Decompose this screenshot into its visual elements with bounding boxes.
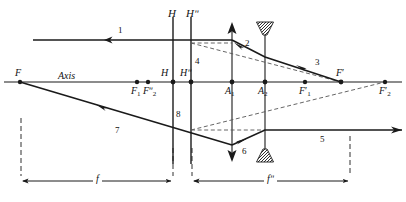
dimension-label-f2: fʺ	[264, 174, 277, 184]
point-label-F1prime: F′1	[299, 86, 311, 98]
point-label-F: F	[15, 68, 21, 78]
ray-label-1: 1	[118, 26, 123, 35]
dimension-extension-lines	[21, 118, 350, 176]
diagram-canvas	[0, 0, 406, 202]
point-label-F1-sub: 1	[137, 90, 141, 98]
optics-ray-diagram: Axis H Hʺ H Hʺ F F1 Fʺ2 A1 A2 F′1 F′ F′2…	[0, 0, 406, 202]
ray-label-3: 3	[315, 58, 320, 67]
dimension-label-f: f	[93, 174, 102, 184]
point-label-Fprime: F′	[336, 68, 344, 78]
principal-plane-H2-axis-label: Hʺ	[180, 68, 191, 78]
dashed-construction-lines	[191, 43, 385, 130]
principal-plane-H-axis-label: H	[161, 68, 168, 78]
ray-label-8: 8	[176, 110, 181, 119]
point-label-F2prime-sub: 2	[387, 90, 391, 98]
ray-label-2: 2	[245, 39, 250, 48]
ray-label-7: 7	[115, 126, 120, 135]
ray-label-5: 5	[320, 135, 325, 144]
ray-1-incident-parallel	[33, 37, 232, 44]
ray-label-6: 6	[242, 147, 247, 156]
point-label-F2dprime: Fʺ2	[143, 86, 156, 98]
point-label-F1: F1	[131, 86, 141, 98]
point-label-F2prime: F′2	[379, 86, 391, 98]
axis-label: Axis	[58, 71, 75, 81]
point-label-A1: A1	[225, 86, 235, 98]
point-label-F2dprime-sub: 2	[153, 90, 157, 98]
point-label-A2-sub: 2	[264, 90, 268, 98]
point-label-Fprime-prime: ′	[342, 67, 344, 78]
ray-label-4: 4	[195, 57, 200, 66]
point-label-F1prime-sub: 1	[307, 90, 311, 98]
point-label-A2: A2	[258, 86, 268, 98]
ray-6-5-refracted-lower	[232, 127, 402, 146]
principal-plane-H2-top-label: Hʺ	[186, 8, 199, 19]
ray-7-from-F	[20, 82, 232, 145]
point-label-A1-sub: 1	[231, 90, 235, 98]
principal-plane-H-top-label: H	[168, 8, 176, 19]
